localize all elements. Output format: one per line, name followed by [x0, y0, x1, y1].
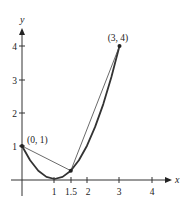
point-3-4 [118, 44, 122, 48]
point-b-label: (3, 4) [108, 33, 129, 44]
x-tick-1: 1 [52, 187, 57, 197]
parabola-curve-precise [22, 46, 120, 179]
x-tick-3: 3 [117, 187, 122, 197]
y-axis-arrow-icon [19, 28, 25, 35]
x-tick-4: 4 [150, 187, 155, 197]
point-a-label: (0, 1) [27, 135, 48, 146]
chord-2 [71, 46, 120, 171]
function-diagram: x y 1 1.5 2 3 4 1 2 3 4 (0, 1) (3, 4 [0, 0, 188, 208]
y-tick-2: 2 [12, 109, 17, 119]
y-tick-1: 1 [12, 142, 17, 152]
x-tick-2: 2 [86, 187, 91, 197]
y-tick-3: 3 [12, 76, 17, 86]
x-axis-label: x [174, 174, 180, 185]
point-0-1 [20, 144, 24, 148]
x-axis-arrow-icon [165, 177, 172, 183]
point-1-5 [69, 169, 73, 173]
y-tick-labels: 1 2 3 4 [12, 42, 17, 152]
x-tick-1-5: 1.5 [65, 187, 77, 197]
parabola-curve [22, 46, 120, 179]
y-axis-label: y [19, 14, 25, 25]
y-tick-4: 4 [12, 42, 17, 52]
x-tick-labels: 1 1.5 2 3 4 [52, 187, 155, 197]
